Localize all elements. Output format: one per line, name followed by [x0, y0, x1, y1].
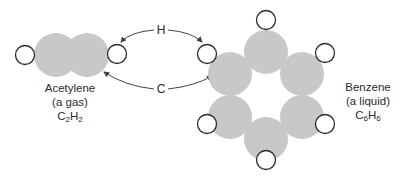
acetylene-molecule: [16, 33, 127, 77]
top-arrow-label: H: [157, 23, 166, 37]
benzene-state: (a liquid): [346, 95, 390, 107]
top-arrow-right: [168, 30, 202, 42]
benzene-ring-center: [250, 78, 282, 114]
benzene-hydrogen-atom-lower-right: [316, 115, 335, 134]
acetylene-caption: Acetylene (a gas) C2H2: [45, 82, 96, 124]
top-arrow-left: [121, 30, 154, 42]
molecule-diagram: Acetylene (a gas) C2H2 H C Benzene (a li…: [0, 0, 400, 180]
acetylene-carbon-atom-2: [65, 33, 109, 77]
benzene-molecule: [198, 11, 335, 170]
benzene-hydrogen-atom-upper-right: [316, 44, 335, 63]
acetylene-state: (a gas): [52, 96, 88, 108]
benzene-name: Benzene: [345, 81, 390, 93]
benzene-carbon-atom-lower-left: [208, 95, 252, 139]
acetylene-hydrogen-atom-right: [108, 45, 127, 64]
benzene-hydrogen-atom-upper-left: [198, 45, 217, 64]
bottom-arrow-right: [168, 76, 212, 89]
acetylene-hydrogen-atom-left: [16, 46, 35, 65]
bottom-arrow-label: C: [157, 82, 166, 96]
bottom-arrow-left: [104, 72, 154, 89]
acetylene-name: Acetylene: [45, 82, 96, 94]
benzene-formula: C6H6: [355, 109, 381, 123]
benzene-caption: Benzene (a liquid) C6H6: [345, 81, 390, 123]
benzene-hydrogen-atom-bottom: [257, 151, 276, 170]
benzene-hydrogen-atom-top: [257, 11, 276, 30]
benzene-hydrogen-atom-lower-left: [198, 115, 217, 134]
acetylene-formula: C2H2: [57, 110, 83, 124]
diagram-canvas: Acetylene (a gas) C2H2 H C Benzene (a li…: [0, 0, 400, 180]
